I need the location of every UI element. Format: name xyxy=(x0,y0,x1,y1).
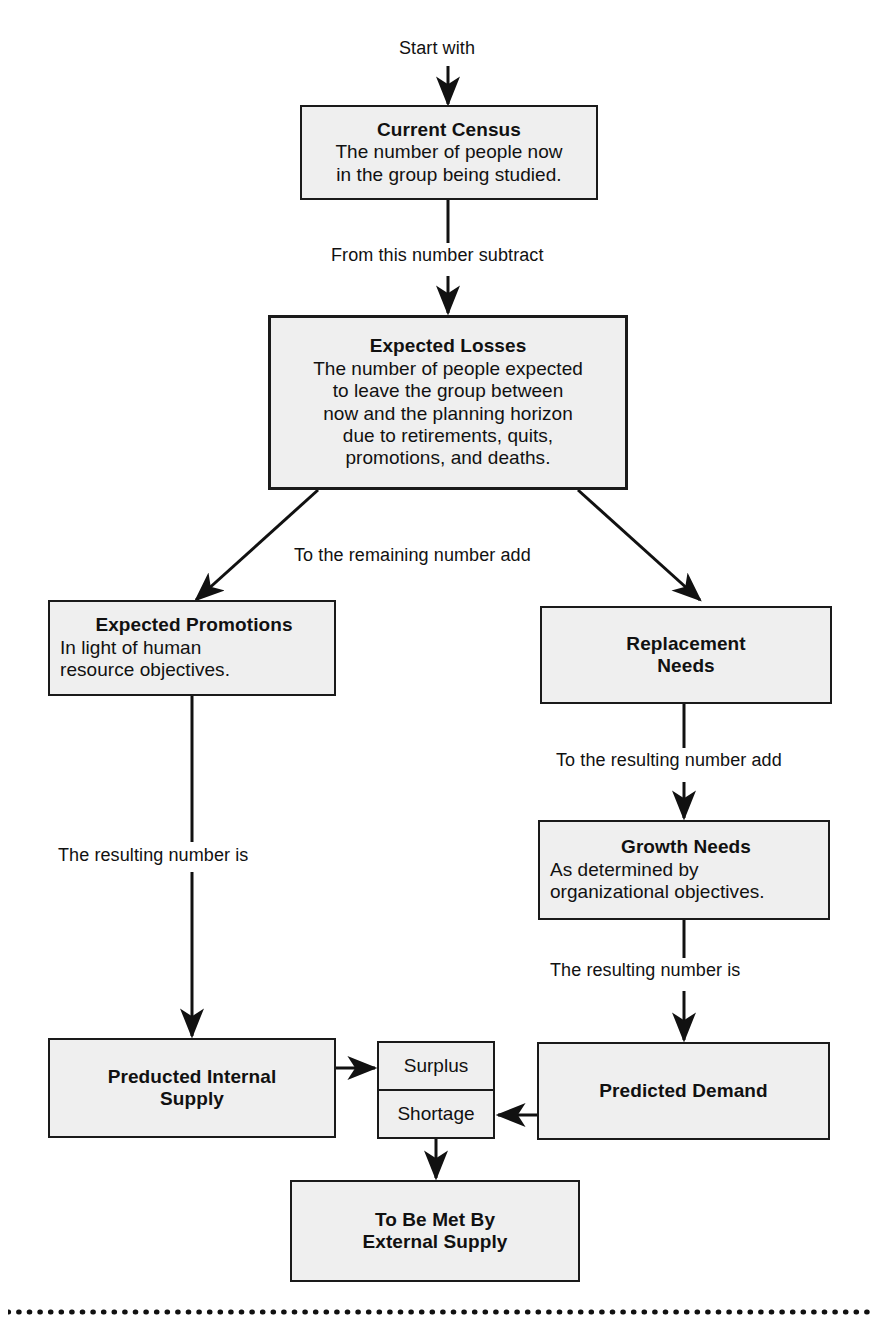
edge-expected-losses-to-replacement-needs xyxy=(578,490,700,600)
caption-the-resulting-number-is-right: The resulting number is xyxy=(550,960,740,981)
node-expected-losses[interactable]: Expected Losses The number of people exp… xyxy=(268,315,628,490)
caption-start-with: Start with xyxy=(399,38,475,59)
node-growth-needs-body: As determined by organizational objectiv… xyxy=(550,859,765,904)
node-replacement-needs[interactable]: Replacement Needs xyxy=(540,606,832,704)
node-predicted-internal-supply[interactable]: Preducted Internal Supply xyxy=(48,1038,336,1138)
node-expected-losses-body: The number of people expected to leave t… xyxy=(313,358,583,470)
node-current-census[interactable]: Current Census The number of people now … xyxy=(300,105,598,200)
node-expected-promotions-title: Expected Promotions xyxy=(95,614,292,636)
node-predicted-internal-supply-title: Preducted Internal Supply xyxy=(108,1066,277,1111)
node-current-census-title: Current Census xyxy=(377,119,521,141)
caption-from-this-number-subtract: From this number subtract xyxy=(331,245,544,266)
node-growth-needs-title: Growth Needs xyxy=(621,836,751,858)
node-expected-promotions[interactable]: Expected Promotions In light of human re… xyxy=(48,600,336,696)
bottom-dotted-rule xyxy=(8,1308,872,1316)
node-predicted-demand[interactable]: Predicted Demand xyxy=(537,1042,830,1140)
node-expected-promotions-body: In light of human resource objectives. xyxy=(60,637,230,682)
node-expected-losses-title: Expected Losses xyxy=(370,335,527,357)
node-growth-needs[interactable]: Growth Needs As determined by organizati… xyxy=(538,820,830,920)
decision-option-shortage[interactable]: Shortage xyxy=(379,1091,493,1137)
node-external-supply[interactable]: To Be Met By External Supply xyxy=(290,1180,580,1282)
caption-to-the-remaining-number-add: To the remaining number add xyxy=(294,545,531,566)
node-external-supply-title: To Be Met By External Supply xyxy=(362,1209,507,1254)
flowchart-canvas: Start with From this number subtract To … xyxy=(0,0,879,1332)
caption-the-resulting-number-is-left: The resulting number is xyxy=(58,845,248,866)
decision-surplus-shortage[interactable]: Surplus Shortage xyxy=(377,1041,495,1139)
node-predicted-demand-title: Predicted Demand xyxy=(599,1080,767,1102)
caption-to-the-resulting-number-add: To the resulting number add xyxy=(556,750,782,771)
decision-option-surplus[interactable]: Surplus xyxy=(379,1043,493,1091)
node-current-census-body: The number of people now in the group be… xyxy=(335,141,562,186)
node-replacement-needs-title: Replacement Needs xyxy=(626,633,745,678)
